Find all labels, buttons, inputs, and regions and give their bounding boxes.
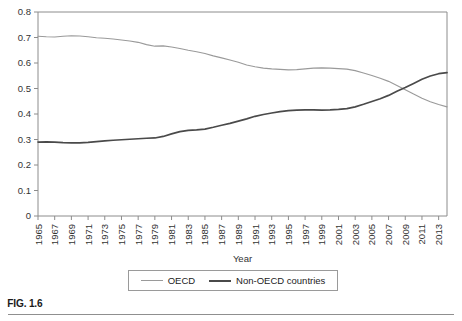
line-chart: 00.10.20.30.40.50.60.70.8196519671969197… — [0, 0, 462, 300]
x-axis-title: Year — [233, 253, 252, 264]
y-tick-label: 0.3 — [18, 134, 31, 145]
x-tick-label: 1971 — [83, 224, 94, 245]
x-tick-label: 1987 — [216, 224, 227, 245]
caption-divider — [8, 314, 454, 315]
figure-caption: FIG. 1.6 — [0, 296, 425, 310]
x-tick-label: 1995 — [283, 224, 294, 245]
x-tick-label: 2007 — [383, 224, 394, 245]
x-tick-label: 1999 — [316, 224, 327, 245]
y-tick-label: 0.7 — [18, 32, 31, 43]
legend-label: OECD — [168, 275, 195, 286]
x-tick-label: 1977 — [133, 224, 144, 245]
x-tick-label: 1965 — [33, 224, 44, 245]
x-tick-label: 2009 — [400, 224, 411, 245]
x-tick-label: 1991 — [250, 224, 261, 245]
y-tick-label: 0.2 — [18, 159, 31, 170]
x-tick-label: 1989 — [233, 224, 244, 245]
x-tick-label: 2005 — [366, 224, 377, 245]
legend-swatch-non-oecd-countries — [209, 280, 231, 282]
y-tick-label: 0.4 — [18, 108, 31, 119]
x-tick-label: 2013 — [433, 224, 444, 245]
x-tick-label: 1967 — [49, 224, 60, 245]
y-tick-label: 0.1 — [18, 185, 31, 196]
chart-legend: OECDNon-OECD countries — [128, 270, 338, 291]
x-tick-label: 1969 — [66, 224, 77, 245]
y-tick-label: 0 — [26, 210, 31, 221]
y-tick-label: 0.6 — [18, 57, 31, 68]
figure-container: 00.10.20.30.40.50.60.70.8196519671969197… — [0, 0, 462, 321]
x-tick-label: 2003 — [350, 224, 361, 245]
x-tick-label: 1981 — [166, 224, 177, 245]
legend-label: Non-OECD countries — [236, 275, 325, 286]
x-tick-label: 2001 — [333, 224, 344, 245]
series-line-non-oecd-countries — [38, 73, 447, 143]
y-tick-label: 0.8 — [18, 6, 31, 17]
x-tick-label: 1993 — [266, 224, 277, 245]
x-tick-label: 2011 — [416, 224, 427, 244]
x-tick-label: 1997 — [300, 224, 311, 245]
y-tick-label: 0.5 — [18, 83, 31, 94]
legend-entry[interactable]: Non-OECD countries — [209, 275, 325, 286]
x-tick-label: 1975 — [116, 224, 127, 245]
x-tick-label: 1983 — [183, 224, 194, 245]
x-tick-label: 1973 — [99, 224, 110, 245]
plot-frame — [38, 12, 447, 216]
legend-entry[interactable]: OECD — [141, 275, 195, 286]
x-tick-label: 1979 — [149, 224, 160, 245]
legend-swatch-oecd — [141, 280, 163, 281]
x-tick-label: 1985 — [199, 224, 210, 245]
figure-caption-block: FIG. 1.6 — [0, 296, 462, 315]
